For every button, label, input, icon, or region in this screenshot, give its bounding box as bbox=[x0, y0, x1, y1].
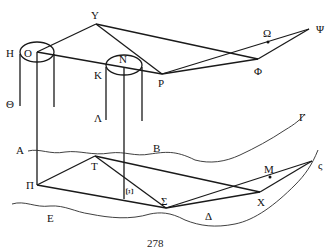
label-delta: Δ bbox=[205, 210, 212, 222]
point-m bbox=[269, 176, 272, 179]
line-p-phi bbox=[162, 59, 258, 74]
label-xi: Ξ bbox=[124, 188, 136, 195]
label-sigma: Σ bbox=[161, 195, 167, 207]
line-o-y bbox=[37, 24, 96, 52]
label-a: Α bbox=[16, 144, 24, 156]
geometric-diagram: Υ Η Ο Ν Κ Ρ Ω Ψ Φ Θ Λ Γ Α Β Τ Μ ς Π Ξ Σ … bbox=[0, 0, 331, 252]
page-number: 278 bbox=[147, 237, 164, 249]
label-n: Ν bbox=[119, 53, 127, 65]
label-k: Κ bbox=[94, 69, 102, 81]
line-pi-t bbox=[37, 156, 95, 185]
label-omega: Ω bbox=[263, 27, 271, 39]
curve-e-delta bbox=[12, 150, 318, 226]
curve-a-b bbox=[28, 114, 305, 162]
line-pi-sigma bbox=[37, 185, 166, 208]
label-t: Τ bbox=[91, 160, 98, 172]
label-zeta: ς bbox=[318, 159, 323, 171]
label-psi: Ψ bbox=[316, 23, 325, 35]
line-p-psi bbox=[162, 29, 309, 74]
label-b: Β bbox=[153, 142, 160, 154]
label-y: Υ bbox=[91, 9, 99, 21]
label-gamma: Γ bbox=[299, 111, 305, 123]
label-m: Μ bbox=[264, 163, 274, 175]
label-o: Ο bbox=[24, 47, 32, 59]
line-sigma-zeta bbox=[166, 161, 312, 208]
label-e: Ε bbox=[47, 212, 54, 224]
label-phi: Φ bbox=[254, 65, 262, 77]
label-lambda: Λ bbox=[94, 112, 102, 124]
label-p: Ρ bbox=[158, 77, 164, 89]
label-pi: Π bbox=[26, 179, 34, 191]
label-x: Χ bbox=[257, 196, 265, 208]
label-h: Η bbox=[6, 47, 14, 59]
point-omega bbox=[267, 41, 270, 44]
label-theta: Θ bbox=[6, 98, 14, 110]
line-sigma-x bbox=[166, 192, 260, 208]
